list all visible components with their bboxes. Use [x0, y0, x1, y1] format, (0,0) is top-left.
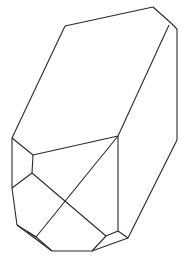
crystal-edge: [153, 7, 171, 23]
crystal-edge: [106, 231, 118, 236]
crystal-edge: [32, 155, 33, 173]
crystal-edge: [12, 173, 32, 188]
crystal-edge: [128, 140, 177, 238]
crystal-edge: [65, 7, 153, 26]
crystal-edge: [12, 26, 65, 138]
crystal-edge: [171, 23, 177, 29]
crystal-edge: [12, 188, 17, 225]
crystal-edge: [118, 231, 128, 238]
crystal-edge: [32, 173, 106, 236]
crystal-edge: [118, 25, 169, 136]
crystal-drawing: [0, 0, 195, 259]
crystal-edge: [36, 237, 52, 251]
crystal-edge: [12, 138, 33, 155]
